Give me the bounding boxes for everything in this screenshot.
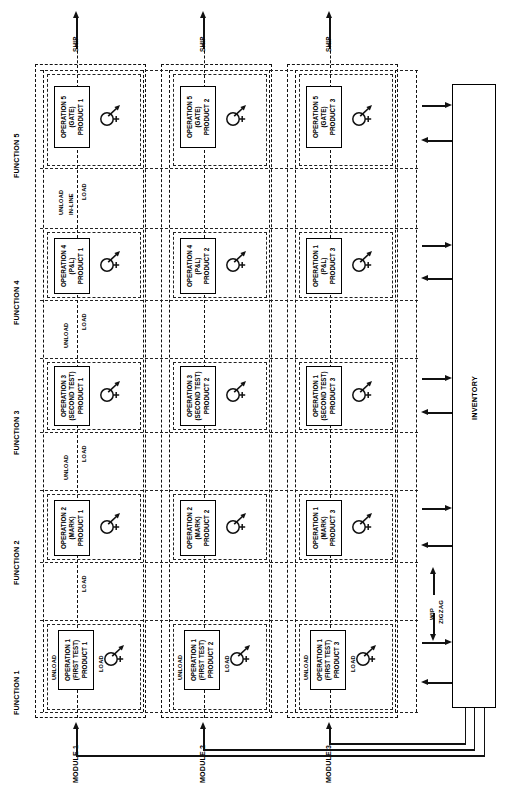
operation-box-m2-f4[interactable]: OPERATION 4 (P&L) PRODUCT 2 <box>180 238 216 294</box>
function-rail-f2-top <box>40 490 418 491</box>
interface-unload-f3-f4: UNLOAD <box>63 323 69 348</box>
op-process: (MARK) <box>194 516 201 539</box>
function-label-1: FUNCTION 1 <box>13 670 21 715</box>
function-label-3: FUNCTION 3 <box>13 410 21 455</box>
interface-inline-f4-f5: IN-LINE <box>68 193 74 215</box>
inventory-label: INVENTORY <box>470 376 479 420</box>
op-process: (P&L) <box>68 258 75 275</box>
operation-box-m3-f2[interactable]: OPERATION 1 (MARK) PRODUCT 3 <box>306 500 342 556</box>
cell-unload-m1-f1: UNLOAD <box>51 655 57 680</box>
diagram-canvas: SHIP SHIP SHIP FUNCTION 1 FUNCTION 2 FUN… <box>0 0 507 791</box>
operation-box-m2-f3[interactable]: OPERATION 3 (SECOND TEST) PRODUCT 2 <box>180 366 216 426</box>
operation-box-m2-f5[interactable]: OPERATION 5 (GATE) PRODUCT 2 <box>180 86 216 148</box>
operation-box-text-m2-f2: OPERATION 2 (MARK) PRODUCT 2 <box>186 507 211 549</box>
inv-out-line-m1-f1 <box>422 642 446 644</box>
inventory-dashed-rail <box>416 70 417 712</box>
op-process: (FIRST TEST) <box>72 640 79 680</box>
robot-icon-m1-f4 <box>96 250 122 276</box>
module-feed-riser-3 <box>465 708 467 744</box>
function-rail-f5-bottom <box>40 168 418 169</box>
function-rail-f3-top <box>40 358 418 359</box>
operation-box-text-m1-f3: OPERATION 3 (SECOND TEST) PRODUCT 1 <box>60 372 85 421</box>
ship-arrowhead-module-3 <box>326 11 332 18</box>
op-product: PRODUCT 1 <box>76 99 83 135</box>
robot-icon-m3-f4 <box>348 250 374 276</box>
robot-icon-m3-f3 <box>348 380 374 406</box>
cell-unload-m3-f1: UNLOAD <box>303 655 309 680</box>
op-name: OPERATION 5 <box>60 96 67 138</box>
operation-box-m3-f5[interactable]: OPERATION 5 (GATE) PRODUCT 3 <box>306 86 342 148</box>
wip-label-line1: WIP <box>428 608 435 620</box>
op-name: OPERATION 1 <box>312 507 319 549</box>
op-name: OPERATION 2 <box>60 507 67 549</box>
operation-box-text-m3-f5: OPERATION 5 (GATE) PRODUCT 3 <box>312 96 337 138</box>
inv-in-arrow-m1-f4 <box>421 275 428 281</box>
op-name: OPERATION 1 <box>316 639 323 681</box>
operation-box-text-m1-f1: OPERATION 1 (FIRST TEST) PRODUCT 1 <box>64 639 89 681</box>
function-label-4: FUNCTION 4 <box>13 280 21 325</box>
op-process: (P&L) <box>320 258 327 275</box>
op-process: (SECOND TEST) <box>194 372 201 421</box>
inv-in-arrow-m1-f2 <box>421 542 428 548</box>
module-feed-riser-1 <box>484 708 486 756</box>
ship-arrowhead-module-1 <box>73 11 79 18</box>
op-name: OPERATION 4 <box>186 245 193 287</box>
interface-unload-f2-f3: UNLOAD <box>63 455 69 480</box>
ship-label-module-3: SHIP <box>325 36 332 52</box>
op-process: (FIRST TEST) <box>198 640 205 680</box>
operation-box-m1-f3[interactable]: OPERATION 3 (SECOND TEST) PRODUCT 1 <box>54 366 90 426</box>
op-name: OPERATION 1 <box>312 375 319 417</box>
module-feed-vline-3 <box>329 728 331 744</box>
ship-label-module-1: SHIP <box>72 36 79 52</box>
module-feed-hline-1 <box>76 755 485 757</box>
op-process: (FIRST TEST) <box>324 640 331 680</box>
module-feed-vline-2 <box>203 728 205 750</box>
op-product: PRODUCT 3 <box>328 378 335 414</box>
operation-box-m1-f4[interactable]: OPERATION 4 (P&L) PRODUCT 1 <box>54 238 90 294</box>
inv-out-arrow-m1-f1 <box>445 639 452 645</box>
module-rail-3-right <box>395 70 396 712</box>
op-process: (GATE) <box>194 106 201 127</box>
operation-box-m1-f5[interactable]: OPERATION 5 (GATE) PRODUCT 1 <box>54 86 90 148</box>
op-name: OPERATION 3 <box>60 375 67 417</box>
robot-icon-m1-f3 <box>96 380 122 406</box>
module-rail-1-left <box>43 70 44 712</box>
inv-out-line-m1-f5 <box>422 105 446 107</box>
op-product: PRODUCT 2 <box>202 378 209 414</box>
function-label-2: FUNCTION 2 <box>13 540 21 585</box>
operation-box-text-m3-f1: OPERATION 1 (FIRST TEST) PRODUCT 3 <box>316 639 341 681</box>
op-product: PRODUCT 2 <box>202 510 209 546</box>
operation-box-m1-f1[interactable]: OPERATION 1 (FIRST TEST) PRODUCT 1 <box>58 630 94 690</box>
op-process: (MARK) <box>68 516 75 539</box>
op-name: OPERATION 1 <box>64 639 71 681</box>
operation-box-m2-f1[interactable]: OPERATION 1 (FIRST TEST) PRODUCT 2 <box>184 630 220 690</box>
interface-load-f3-f4: LOAD <box>81 313 87 330</box>
op-product: PRODUCT 1 <box>76 248 83 284</box>
op-process: (GATE) <box>320 106 327 127</box>
module-feed-vline-1 <box>76 728 78 756</box>
operation-box-text-m2-f3: OPERATION 3 (SECOND TEST) PRODUCT 2 <box>186 372 211 421</box>
op-product: PRODUCT 1 <box>76 378 83 414</box>
operation-box-m1-f2[interactable]: OPERATION 2 (MARK) PRODUCT 1 <box>54 500 90 556</box>
op-name: OPERATION 1 <box>190 639 197 681</box>
inv-in-arrow-m1-f1 <box>421 679 428 685</box>
inv-out-arrow-m1-f2 <box>445 505 452 511</box>
operation-box-m2-f2[interactable]: OPERATION 2 (MARK) PRODUCT 2 <box>180 500 216 556</box>
op-name: OPERATION 2 <box>186 507 193 549</box>
cell-load-m1-f1: LOAD <box>98 655 104 672</box>
op-name: OPERATION 5 <box>312 96 319 138</box>
op-process: (SECOND TEST) <box>68 372 75 421</box>
op-product: PRODUCT 2 <box>202 248 209 284</box>
operation-box-m3-f1[interactable]: OPERATION 1 (FIRST TEST) PRODUCT 3 <box>310 630 346 690</box>
operation-box-text-m1-f5: OPERATION 5 (GATE) PRODUCT 1 <box>60 96 85 138</box>
robot-icon-m2-f3 <box>222 380 248 406</box>
robot-icon-m1-f2 <box>96 512 122 538</box>
operation-box-m3-f3[interactable]: OPERATION 1 (SECOND TEST) PRODUCT 3 <box>306 366 342 426</box>
op-product: PRODUCT 2 <box>206 642 213 678</box>
operation-box-text-m3-f2: OPERATION 1 (MARK) PRODUCT 3 <box>312 507 337 549</box>
operation-box-m3-f4[interactable]: OPERATION 1 (P&L) PRODUCT 3 <box>306 238 342 294</box>
operation-box-text-m3-f3: OPERATION 1 (SECOND TEST) PRODUCT 3 <box>312 372 337 421</box>
interface-load-f4-f5: LOAD <box>81 183 87 200</box>
function-rail-f1-top <box>40 620 418 621</box>
inv-out-line-m1-f3 <box>422 378 446 380</box>
